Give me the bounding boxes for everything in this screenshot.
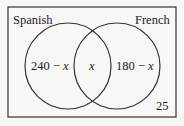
french-label: French xyxy=(135,13,170,27)
intersection-region: x xyxy=(88,59,95,73)
spanish-only-number: 240 − xyxy=(31,59,63,73)
spanish-only-region: 240 − x xyxy=(31,59,69,73)
french-only-region: 180 − x xyxy=(116,59,154,73)
spanish-label: Spanish xyxy=(13,13,53,27)
french-only-number: 180 − xyxy=(116,59,148,73)
outside-count: 25 xyxy=(156,99,169,113)
french-only-variable: x xyxy=(147,59,154,73)
spanish-only-variable: x xyxy=(62,59,69,73)
venn-diagram: Spanish French 240 − x x 180 − x 25 xyxy=(0,0,184,126)
